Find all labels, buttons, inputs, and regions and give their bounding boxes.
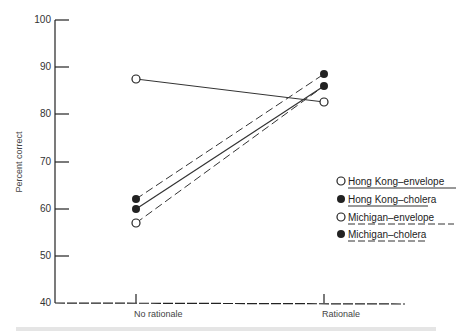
svg-text:Michigan–envelope: Michigan–envelope (348, 212, 435, 223)
series-line-hong-kong-envelope (136, 79, 324, 102)
svg-text:40: 40 (40, 297, 52, 308)
marker-michigan-cholera-rationale (320, 70, 328, 78)
legend: Hong Kong–envelope Hong Kong–cholera Mic… (337, 176, 456, 241)
series-line-michigan-cholera (136, 74, 324, 199)
legend-item-hong-kong-envelope: Hong Kong–envelope (337, 176, 456, 188)
svg-text:100: 100 (34, 14, 51, 25)
svg-text:60: 60 (40, 203, 52, 214)
svg-text:Michigan–cholera: Michigan–cholera (348, 229, 427, 240)
svg-text:70: 70 (40, 156, 52, 167)
marker-hong-kong-envelope-rationale (320, 98, 328, 106)
marker-hong-kong-cholera-rationale (320, 82, 328, 90)
x-tick-label-no-rationale: No rationale (134, 309, 183, 319)
svg-text:90: 90 (40, 61, 52, 72)
line-chart: 100 90 80 70 60 50 40 Percent correct No… (0, 0, 460, 332)
y-axis-title: Percent correct (14, 131, 24, 193)
open-circle-icon (337, 213, 345, 221)
x-axis (55, 303, 405, 304)
svg-text:Hong Kong–cholera: Hong Kong–cholera (348, 194, 437, 205)
marker-hong-kong-cholera-no-rationale (132, 205, 140, 213)
caption-remnant (16, 327, 436, 331)
legend-item-michigan-cholera: Michigan–cholera (337, 229, 428, 241)
series-line-michigan-envelope (136, 86, 324, 223)
marker-hong-kong-envelope-no-rationale (132, 75, 140, 83)
filled-circle-icon (337, 195, 345, 203)
svg-text:50: 50 (40, 250, 52, 261)
legend-item-michigan-envelope: Michigan–envelope (337, 212, 454, 224)
open-circle-icon (337, 177, 345, 185)
marker-michigan-envelope-no-rationale (132, 219, 140, 227)
svg-text:Hong Kong–envelope: Hong Kong–envelope (348, 176, 445, 187)
x-tick-label-rationale: Rationale (322, 309, 360, 319)
series-line-hong-kong-cholera (136, 86, 324, 209)
marker-michigan-cholera-no-rationale (132, 195, 140, 203)
filled-circle-icon (337, 230, 345, 238)
svg-text:80: 80 (40, 108, 52, 119)
y-tick-labels: 100 90 80 70 60 50 40 (34, 14, 51, 308)
legend-item-hong-kong-cholera: Hong Kong–cholera (337, 194, 437, 206)
y-ticks (55, 20, 69, 256)
